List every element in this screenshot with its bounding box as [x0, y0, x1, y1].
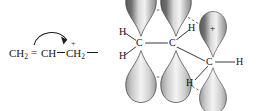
- hydrogen-right-side-label: H: [236, 57, 243, 67]
- left-structure: CH2 = CH + CH2: [0, 0, 118, 111]
- carbon-left-label: C: [136, 38, 143, 48]
- empty-orbital-plus-sign: +: [210, 24, 215, 33]
- p-orbital-lobe-c3-down: [200, 68, 227, 111]
- chemistry-figure: CH2 = CH + CH2: [0, 0, 260, 111]
- p-orbital-lobe-c1-up: [126, 0, 157, 36]
- hydrogen-left-bottom-label: H: [119, 51, 126, 61]
- hydrogen-right-bottom-label: H: [186, 78, 193, 88]
- carbon-middle-label: C: [169, 38, 176, 48]
- p-orbital-lobe-c3-up-empty: [200, 12, 227, 58]
- electron-shift-curved-arrow: [0, 0, 118, 111]
- hydrogen-middle-top-label: H: [188, 23, 195, 33]
- orbital-diagram: C C C H H H H H +: [118, 0, 260, 111]
- hydrogen-left-top-label: H: [119, 27, 126, 37]
- p-orbital-lobe-c1-down: [126, 51, 157, 103]
- p-orbital-lobe-c2-up: [161, 0, 192, 36]
- carbon-right-label: C: [206, 57, 213, 67]
